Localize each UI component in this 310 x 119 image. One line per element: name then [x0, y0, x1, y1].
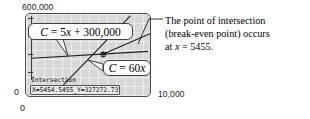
- callout-revenue-equation: C = 60x: [103, 60, 151, 76]
- y-axis-max-label: 600,000: [22, 2, 53, 12]
- annotation-text-block: The point of intersection (break-even po…: [165, 14, 309, 54]
- x-axis-max-label: 10,000: [158, 89, 185, 99]
- readout-title: Intersection: [30, 76, 150, 85]
- annotation-line-3-prefix: at: [165, 41, 175, 52]
- x-axis-min-label: 0: [20, 103, 25, 113]
- readout-coordinates: X=5454.5455_Y=327272.73: [30, 85, 120, 96]
- callout-cost-text: C = 5x + 300,000: [40, 26, 120, 38]
- callout-cost-equation: C = 5x + 300,000: [28, 23, 133, 40]
- y-axis-min-label: 0: [14, 87, 19, 97]
- figure-container: 600,000 0 0 10,000 Intersection X=: [0, 0, 310, 119]
- annotation-line-3: at x = 5455.: [165, 40, 309, 53]
- annotation-line-2: (break-even point) occurs: [165, 27, 309, 40]
- callout-revenue-text: C = 60x: [109, 62, 146, 74]
- calculator-readout: Intersection X=5454.5455_Y=327272.73: [30, 76, 150, 95]
- annotation-line-1: The point of intersection: [165, 14, 309, 27]
- annotation-line-3-suffix: = 5455.: [179, 41, 213, 52]
